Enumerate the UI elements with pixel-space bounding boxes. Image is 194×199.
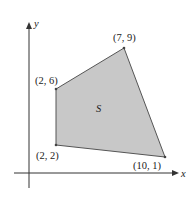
vertex-label: (2, 6) bbox=[35, 75, 58, 87]
vertex-marker bbox=[123, 47, 126, 50]
x-axis-arrow-icon bbox=[172, 170, 179, 176]
vertex-label: (2, 2) bbox=[36, 150, 59, 162]
region-label: S bbox=[96, 103, 102, 114]
y-axis-arrow-icon bbox=[26, 22, 32, 29]
vertex-label: (7, 9) bbox=[113, 32, 136, 44]
vertex-marker bbox=[55, 88, 58, 91]
x-axis-label: x bbox=[180, 168, 186, 179]
vertex-marker bbox=[55, 144, 58, 147]
vertex-marker bbox=[164, 156, 167, 159]
region-s bbox=[56, 48, 165, 157]
y-axis-label: y bbox=[33, 18, 39, 29]
vertex-label: (10, 1) bbox=[133, 160, 161, 172]
region-diagram: y x S (2, 6) (7, 9) (10, 1) (2, 2) bbox=[0, 0, 194, 199]
